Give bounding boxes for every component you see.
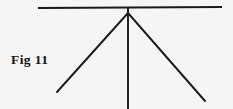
figure-caption: Fig 11 [11,52,48,67]
horizontal-ground-line [38,7,222,8]
right-diagonal-line [128,13,205,101]
left-diagonal-line [57,13,128,92]
figure-diagram: Fig 11 [0,0,233,109]
